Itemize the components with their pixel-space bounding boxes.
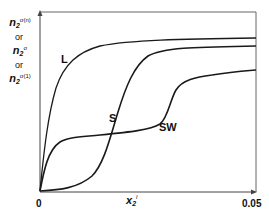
y-label-term-2: n2σ	[4, 42, 36, 60]
x-tick-max: 0.05	[242, 198, 261, 209]
y-label-term-3: n2σ(1)	[4, 70, 36, 88]
curve-S	[40, 46, 256, 191]
x-tick-0: 0	[36, 198, 42, 209]
y-axis-label: n2σ(n) or n2σ or n2σ(1)	[2, 14, 36, 88]
curve-L	[40, 38, 256, 191]
y-label-or-2: or	[2, 60, 36, 70]
y-label-or-1: or	[2, 32, 36, 42]
chart-plot-area	[0, 0, 269, 219]
curve-label-SW: SW	[159, 121, 177, 133]
x-axis-label: x2l	[126, 194, 137, 207]
curve-label-L: L	[61, 53, 68, 65]
y-axis-arrow-icon	[38, 10, 43, 16]
curve-label-S: S	[109, 112, 116, 124]
curve-SW	[40, 70, 256, 191]
y-label-term-1: n2σ(n)	[4, 14, 36, 32]
